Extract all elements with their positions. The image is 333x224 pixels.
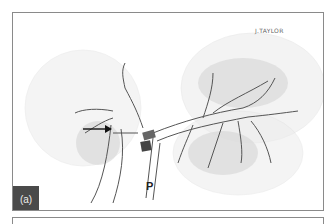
annotation-label-p: P — [146, 180, 153, 192]
figure-panel-a: J.TAYLOR P (a) — [12, 12, 324, 211]
anatomical-illustration — [13, 13, 324, 211]
figure-panel-b-top-edge — [12, 217, 324, 224]
clip-icon — [140, 130, 156, 152]
panel-label-badge: (a) — [13, 186, 39, 211]
illustrator-signature: J.TAYLOR — [255, 27, 284, 34]
